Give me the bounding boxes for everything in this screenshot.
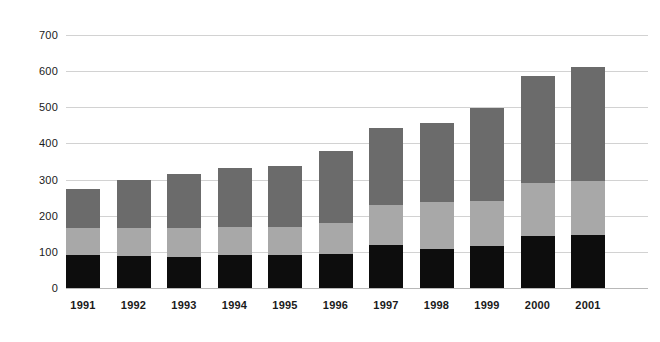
bar-segment-middle-segment-1995[interactable]	[268, 227, 302, 256]
gridline-600	[66, 71, 648, 72]
stacked-bar-chart: 0100200300400500600700 19911992199319941…	[0, 0, 660, 342]
bar-segment-middle-segment-1997[interactable]	[369, 205, 403, 245]
bar-segment-middle-segment-1991[interactable]	[66, 228, 100, 255]
bar-2000[interactable]	[521, 76, 555, 288]
y-axis: 0100200300400500600700	[12, 0, 58, 342]
x-tick-label-2001: 2001	[558, 299, 618, 311]
bar-segment-middle-segment-2000[interactable]	[521, 183, 555, 236]
gridline-700	[66, 35, 648, 36]
bar-1995[interactable]	[268, 166, 302, 288]
bar-segment-bottom-segment-1997[interactable]	[369, 245, 403, 288]
bar-segment-top-segment-1995[interactable]	[268, 166, 302, 226]
bar-segment-bottom-segment-1992[interactable]	[117, 256, 151, 288]
bar-segment-middle-segment-1996[interactable]	[319, 223, 353, 254]
gridline-400	[66, 143, 648, 144]
bar-segment-top-segment-1998[interactable]	[420, 123, 454, 202]
bar-segment-top-segment-1992[interactable]	[117, 180, 151, 228]
bar-1997[interactable]	[369, 128, 403, 288]
bar-segment-bottom-segment-1991[interactable]	[66, 255, 100, 288]
bar-segment-bottom-segment-1994[interactable]	[218, 255, 252, 288]
bar-segment-middle-segment-2001[interactable]	[571, 181, 605, 234]
y-tick-label-300: 300	[18, 175, 58, 186]
bar-1993[interactable]	[167, 174, 201, 288]
y-tick-label-400: 400	[18, 138, 58, 149]
y-tick-label-700: 700	[18, 30, 58, 41]
bar-segment-top-segment-2000[interactable]	[521, 76, 555, 183]
bar-segment-bottom-segment-1996[interactable]	[319, 254, 353, 288]
gridline-100	[66, 252, 648, 253]
bar-1992[interactable]	[117, 180, 151, 288]
y-tick-label-100: 100	[18, 247, 58, 258]
bar-segment-middle-segment-1992[interactable]	[117, 228, 151, 256]
bar-segment-top-segment-1991[interactable]	[66, 189, 100, 228]
y-tick-label-500: 500	[18, 102, 58, 113]
bar-1996[interactable]	[319, 151, 353, 288]
bar-segment-bottom-segment-2000[interactable]	[521, 236, 555, 288]
gridline-500	[66, 107, 648, 108]
gridline-0	[66, 288, 648, 289]
bar-segment-bottom-segment-2001[interactable]	[571, 235, 605, 288]
bar-segment-top-segment-1999[interactable]	[470, 108, 504, 201]
bar-2001[interactable]	[571, 67, 605, 288]
bar-segment-top-segment-1993[interactable]	[167, 174, 201, 228]
bar-segment-top-segment-1994[interactable]	[218, 168, 252, 227]
bar-segment-middle-segment-1993[interactable]	[167, 228, 201, 256]
bar-1994[interactable]	[218, 168, 252, 288]
bar-segment-bottom-segment-1993[interactable]	[167, 257, 201, 288]
bar-1998[interactable]	[420, 123, 454, 288]
bar-segment-middle-segment-1999[interactable]	[470, 201, 504, 246]
plot-area	[66, 35, 648, 288]
bar-segment-bottom-segment-1998[interactable]	[420, 249, 454, 288]
bar-segment-middle-segment-1994[interactable]	[218, 227, 252, 255]
y-tick-label-200: 200	[18, 211, 58, 222]
y-tick-label-600: 600	[18, 66, 58, 77]
gridline-200	[66, 216, 648, 217]
y-tick-label-0: 0	[18, 283, 58, 294]
bar-segment-top-segment-1997[interactable]	[369, 128, 403, 205]
gridline-300	[66, 180, 648, 181]
bar-segment-bottom-segment-1999[interactable]	[470, 246, 504, 288]
bar-segment-top-segment-1996[interactable]	[319, 151, 353, 223]
bar-1991[interactable]	[66, 189, 100, 288]
bar-segment-middle-segment-1998[interactable]	[420, 202, 454, 249]
bar-segment-top-segment-2001[interactable]	[571, 67, 605, 182]
bar-segment-bottom-segment-1995[interactable]	[268, 255, 302, 288]
bar-1999[interactable]	[470, 108, 504, 288]
